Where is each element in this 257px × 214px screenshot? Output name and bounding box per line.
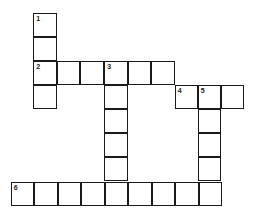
clue-number: 4 — [178, 87, 182, 94]
crossword-cell[interactable] — [104, 85, 128, 109]
crossword-cell[interactable] — [104, 109, 128, 133]
crossword-cell[interactable] — [34, 182, 58, 206]
crossword-cell[interactable]: 4 — [175, 85, 199, 109]
crossword-cell[interactable]: 6 — [11, 182, 35, 206]
crossword-cell[interactable]: 2 — [33, 61, 57, 85]
crossword-cell[interactable] — [57, 61, 81, 85]
clue-number: 5 — [201, 87, 205, 94]
crossword-cell[interactable] — [199, 182, 223, 206]
crossword-cell[interactable] — [81, 182, 105, 206]
crossword-cell[interactable] — [33, 85, 57, 109]
crossword-cell[interactable]: 1 — [33, 13, 57, 37]
crossword-cell[interactable]: 3 — [104, 61, 128, 85]
crossword-cell[interactable] — [105, 182, 129, 206]
crossword-cell[interactable] — [198, 109, 222, 133]
clue-number: 2 — [36, 63, 40, 70]
crossword-cell[interactable] — [175, 182, 199, 206]
crossword-cell[interactable] — [151, 61, 175, 85]
clue-number: 1 — [36, 15, 40, 22]
crossword-cell[interactable] — [128, 182, 152, 206]
crossword-cell[interactable] — [33, 37, 57, 61]
crossword-cell[interactable] — [104, 157, 128, 181]
crossword-cell[interactable]: 5 — [198, 85, 222, 109]
crossword-cell[interactable] — [104, 133, 128, 157]
crossword-grid: 123456 — [0, 0, 257, 214]
crossword-cell[interactable] — [128, 61, 152, 85]
crossword-cell[interactable] — [198, 157, 222, 181]
crossword-cell[interactable] — [198, 133, 222, 157]
clue-number: 3 — [107, 63, 111, 70]
crossword-cell[interactable] — [152, 182, 176, 206]
crossword-cell[interactable] — [80, 61, 104, 85]
clue-number: 6 — [14, 184, 18, 191]
crossword-cell[interactable] — [58, 182, 82, 206]
crossword-cell[interactable] — [221, 85, 245, 109]
